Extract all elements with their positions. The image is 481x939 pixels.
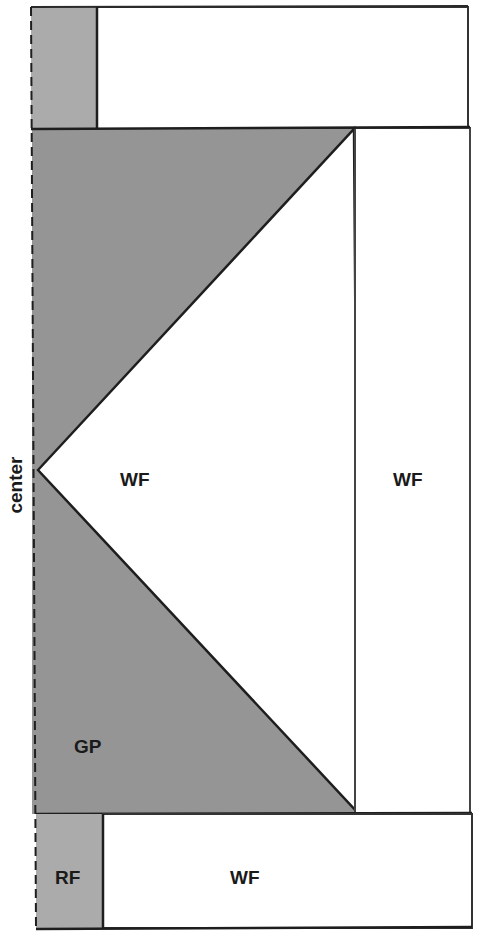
- bottom-white-label: WF: [230, 867, 260, 889]
- top-white-block: [97, 7, 468, 129]
- center-axis-label: center: [5, 455, 27, 515]
- bottom-gray-label: RF: [55, 867, 80, 889]
- ground-plate-label: GP: [74, 736, 101, 758]
- top-gray-strip: [31, 7, 97, 129]
- inner-wedge-label: WF: [120, 469, 150, 491]
- bottom-white-block: [103, 814, 472, 928]
- right-panel-label: WF: [393, 469, 423, 491]
